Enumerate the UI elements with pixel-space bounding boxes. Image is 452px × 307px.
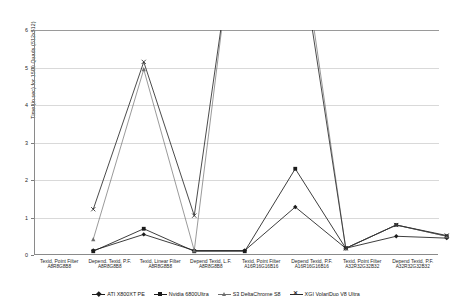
data-point-marker	[142, 227, 146, 231]
legend-item[interactable]: ATI X800XT PE	[92, 291, 145, 298]
line-chart: Time (in sec) for 1500 Quads (512x512) 6…	[0, 0, 452, 307]
series-line	[93, 0, 447, 248]
y-axis-tick-label: 3	[14, 140, 28, 146]
legend-item[interactable]: S3 DeltaChrome S8	[218, 291, 281, 298]
x-axis-category-label: Depend Texid, P.F.A32R32G32B32	[384, 258, 443, 271]
legend-item[interactable]: XGI VolariDuo V8 Ultra	[290, 291, 360, 298]
y-axis-tick-label: 4	[14, 102, 28, 108]
series-line	[93, 0, 447, 251]
legend-marker-icon	[92, 291, 105, 298]
legend-item[interactable]: Nvidia 6800Ultra	[154, 291, 209, 298]
data-point-marker	[91, 237, 95, 241]
y-axis-tick-label: 1	[14, 215, 28, 221]
legend-label: ATI X800XT PE	[107, 291, 145, 297]
x-axis-tick-labels: Texid, Point FilterA8R8G8B8Depend. Texid…	[34, 258, 438, 278]
data-point-marker	[394, 234, 398, 238]
legend-label: Nvidia 6800Ultra	[169, 291, 209, 297]
series-line	[93, 207, 447, 251]
y-axis-tick-label: 0	[14, 252, 28, 258]
legend-marker-icon	[290, 291, 303, 298]
chart-legend: ATI X800XT PENvidia 6800UltraS3 DeltaChr…	[0, 288, 452, 300]
legend-label: XGI VolariDuo V8 Ultra	[305, 291, 360, 297]
data-point-marker	[243, 249, 247, 253]
data-point-marker	[293, 167, 297, 171]
legend-marker-icon	[218, 291, 231, 298]
legend-marker-icon	[154, 291, 167, 298]
series-line	[93, 169, 447, 252]
data-point-marker	[91, 249, 95, 253]
data-point-marker	[91, 207, 95, 211]
y-axis-tick-label: 5	[14, 65, 28, 71]
data-point-marker	[142, 60, 146, 64]
data-point-marker	[142, 232, 146, 236]
y-axis-tick-label: 6	[14, 27, 28, 33]
y-axis-tick-label: 2	[14, 177, 28, 183]
legend-label: S3 DeltaChrome S8	[233, 291, 281, 297]
